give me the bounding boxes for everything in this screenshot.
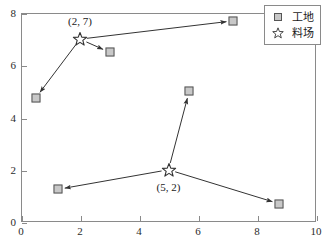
point-coordinate-label: (2, 7)	[68, 16, 92, 27]
y-tick	[22, 223, 27, 224]
x-tick-label: 0	[18, 226, 24, 237]
x-tick-label: 4	[136, 226, 142, 237]
star-marker-icon	[269, 27, 287, 39]
site-point-marker[interactable]	[105, 48, 114, 57]
x-tick	[258, 216, 259, 221]
x-tick	[317, 216, 318, 221]
depot-point-marker[interactable]	[161, 162, 176, 177]
y-tick-label: 8	[0, 8, 16, 19]
y-tick	[22, 119, 27, 120]
legend-label-site: 工地	[292, 12, 314, 23]
site-point-marker[interactable]	[275, 199, 284, 208]
scatter-chart-figure: 0246810 02468 (2, 7)(5, 2) 工地 料场	[0, 0, 326, 251]
site-point-marker[interactable]	[229, 16, 238, 25]
y-tick	[22, 66, 27, 67]
x-tick-label: 6	[195, 226, 201, 237]
legend-entry-depot[interactable]: 料场	[269, 25, 314, 41]
depot-point-marker[interactable]	[73, 32, 88, 47]
site-point-marker[interactable]	[185, 87, 194, 96]
x-tick	[140, 216, 141, 221]
x-tick-label: 10	[311, 226, 322, 237]
square-marker-icon	[269, 13, 287, 21]
legend-entry-site[interactable]: 工地	[269, 9, 314, 25]
x-tick-label: 2	[77, 226, 83, 237]
y-tick	[22, 171, 27, 172]
site-point-marker[interactable]	[53, 185, 62, 194]
y-tick	[22, 14, 27, 15]
x-tick-label: 8	[254, 226, 260, 237]
x-tick	[22, 216, 23, 221]
site-point-marker[interactable]	[31, 93, 40, 102]
y-tick-label: 6	[0, 60, 16, 71]
point-coordinate-label: (5, 2)	[157, 182, 181, 193]
legend-label-depot: 料场	[292, 28, 314, 39]
y-tick-label: 0	[0, 217, 16, 228]
chart-legend[interactable]: 工地 料场	[264, 5, 321, 45]
y-tick-label: 4	[0, 112, 16, 123]
y-tick-label: 2	[0, 164, 16, 175]
x-tick	[199, 216, 200, 221]
x-tick	[81, 216, 82, 221]
